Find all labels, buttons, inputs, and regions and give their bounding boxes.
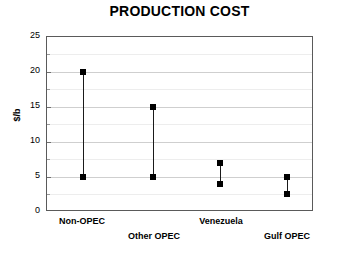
plot-area xyxy=(46,36,313,211)
y-axis-title: $/b xyxy=(12,102,22,128)
y-tick-mark-12_5 xyxy=(47,124,50,125)
gridline-minor-7_5 xyxy=(47,159,312,160)
gridline-minor-12_5 xyxy=(47,124,312,125)
marker-non-opec-low xyxy=(80,174,86,180)
x-tick-label-other-opec: Other OPEC xyxy=(120,231,188,242)
marker-gulf-opec-high xyxy=(284,174,290,180)
y-tick-mark-5 xyxy=(47,177,51,178)
marker-non-opec-high xyxy=(80,69,86,75)
marker-other-opec-low xyxy=(150,174,156,180)
y-tick-label-10: 10 xyxy=(22,136,40,145)
marker-venezuela-low xyxy=(217,181,223,187)
chart-figure: PRODUCTION COST $/b 25 20 15 10 5 0 xyxy=(0,0,340,254)
y-tick-mark-15 xyxy=(47,107,51,108)
gridline-minor-2_5 xyxy=(47,194,312,195)
marker-venezuela-high xyxy=(217,160,223,166)
chart-title: PRODUCTION COST xyxy=(46,3,313,20)
x-tick-label-gulf-opec: Gulf OPEC xyxy=(256,231,318,242)
y-tick-mark-20 xyxy=(47,72,51,73)
x-tick-label-venezuela: Venezuela xyxy=(190,216,252,227)
x-tick-label-non-opec: Non-OPEC xyxy=(52,216,112,227)
y-tick-mark-2_5 xyxy=(47,194,50,195)
y-tick-label-15: 15 xyxy=(22,101,40,110)
gridline-15 xyxy=(47,107,312,108)
gridline-minor-22_5 xyxy=(47,54,312,55)
range-line-other-opec xyxy=(153,107,154,177)
y-tick-label-25: 25 xyxy=(22,31,40,40)
y-tick-mark-17_5 xyxy=(47,89,50,90)
y-tick-mark-10 xyxy=(47,142,51,143)
gridline-10 xyxy=(47,142,312,143)
gridline-5 xyxy=(47,177,312,178)
gridline-20 xyxy=(47,72,312,73)
gridline-minor-17_5 xyxy=(47,89,312,90)
y-tick-mark-22_5 xyxy=(47,54,50,55)
marker-gulf-opec-low xyxy=(284,191,290,197)
y-tick-mark-7_5 xyxy=(47,159,50,160)
y-tick-label-20: 20 xyxy=(22,66,40,75)
y-tick-label-0: 0 xyxy=(22,206,40,215)
range-line-non-opec xyxy=(83,72,84,177)
marker-other-opec-high xyxy=(150,104,156,110)
y-tick-label-5: 5 xyxy=(22,171,40,180)
